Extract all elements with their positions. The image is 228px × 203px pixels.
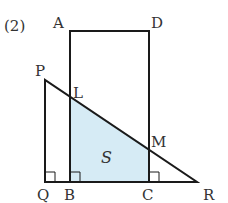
label-l: L — [73, 84, 83, 102]
right-angle-mark-q — [45, 172, 55, 182]
right-angle-mark-c — [149, 172, 159, 182]
shaded-region-s — [70, 98, 149, 182]
label-s: S — [101, 148, 112, 167]
label-r: R — [203, 186, 215, 203]
label-q: Q — [37, 186, 49, 203]
label-a: A — [52, 14, 64, 32]
label-p: P — [35, 62, 45, 80]
label-c: C — [142, 186, 153, 203]
geometry-figure: (2) A D P L M S Q B C R — [0, 0, 228, 203]
label-m: M — [151, 133, 166, 151]
problem-number: (2) — [4, 17, 25, 35]
label-b: B — [64, 186, 75, 203]
label-d: D — [151, 14, 163, 32]
